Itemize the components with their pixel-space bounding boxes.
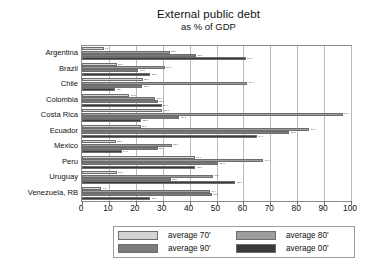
x-axis-tick-label: 100 xyxy=(343,203,357,213)
bar xyxy=(82,181,235,184)
y-axis-label-uruguay: Uruguay xyxy=(4,172,78,181)
bar-value-label: 77.0 xyxy=(291,131,296,134)
bar-value-label: 21.0 xyxy=(140,69,145,72)
bar-value-label: 33.0 xyxy=(172,178,177,181)
bar-group: 22.661.422.412.4 xyxy=(82,77,351,93)
x-axis-tick-label: 70 xyxy=(265,203,274,213)
bar-value-label: 48.6 xyxy=(214,174,219,177)
legend-swatch-icon xyxy=(118,231,158,240)
plot-area: 8.132.642.260.812.930.821.025.322.661.42… xyxy=(81,45,352,202)
bar-value-label: 30.8 xyxy=(166,66,171,69)
bar-value-label: 61.4 xyxy=(249,81,254,84)
legend-label: average 70' xyxy=(168,231,211,240)
bar-value-label: 67.4 xyxy=(265,159,270,162)
bar-value-label: 22.0 xyxy=(143,119,148,122)
bar-value-label: 7.1 xyxy=(103,187,106,190)
legend-items: average 70'average 80'average 90'average… xyxy=(118,230,352,256)
bar-group: 8.132.642.260.8 xyxy=(82,46,351,62)
bar-group: 29.897.036.122.0 xyxy=(82,108,351,124)
bar-value-label: 22.6 xyxy=(144,78,149,81)
legend-item[interactable]: average 90' xyxy=(118,243,211,254)
y-axis-labels: ArgentinaBrazilChileColombiaCosta RicaEc… xyxy=(2,45,78,200)
bar-value-label: 22.4 xyxy=(144,85,149,88)
legend-label: average 00' xyxy=(286,244,329,253)
bar-group: 21.984.477.064.9 xyxy=(82,124,351,140)
x-axis-tick-label: 90 xyxy=(318,203,327,213)
bar-value-label: 48.2 xyxy=(213,193,218,196)
bar-value-label: 12.9 xyxy=(118,63,123,66)
bar xyxy=(82,88,115,91)
gridline xyxy=(351,46,352,201)
x-axis-tick-label: 0 xyxy=(79,203,84,213)
page-title: External public debt xyxy=(0,8,369,21)
bar-group: 12.533.328.114.7 xyxy=(82,139,351,155)
bar xyxy=(82,150,122,153)
bar-value-label: 64.9 xyxy=(258,135,263,138)
x-axis-tick-label: 10 xyxy=(103,203,112,213)
bar-value-label: 42.1 xyxy=(197,166,202,169)
bar-value-label: 8.1 xyxy=(105,47,108,50)
x-axis-tick-label: 80 xyxy=(292,203,301,213)
x-axis-labels: 0102030405060708090100 xyxy=(81,203,350,217)
bar-value-label: 56.9 xyxy=(237,181,242,184)
bar-value-label: 32.6 xyxy=(171,50,176,53)
bar-value-label: 28.1 xyxy=(159,100,164,103)
bar xyxy=(82,119,141,122)
legend-swatch-icon xyxy=(236,231,276,240)
legend-item[interactable]: average 80' xyxy=(236,230,329,241)
bar-group: 13.048.633.056.9 xyxy=(82,170,351,186)
bar xyxy=(82,57,246,60)
bar-value-label: 50.7 xyxy=(220,162,225,165)
y-axis-label-argentina: Argentina xyxy=(4,48,78,57)
bar-value-label: 41.9 xyxy=(196,156,201,159)
bar-value-label: 33.3 xyxy=(173,143,178,146)
y-axis-label-mexico: Mexico xyxy=(4,141,78,150)
x-axis-tick-label: 20 xyxy=(130,203,139,213)
bar-value-label: 97.0 xyxy=(344,112,349,115)
bar-value-label: 28.1 xyxy=(159,147,164,150)
bar xyxy=(82,135,257,138)
y-axis-label-chile: Chile xyxy=(4,79,78,88)
bar-value-label: 84.4 xyxy=(311,128,316,131)
bar-value-label: 12.5 xyxy=(117,140,122,143)
x-axis-tick-label: 60 xyxy=(238,203,247,213)
bar xyxy=(82,73,150,76)
bar-value-label: 42.2 xyxy=(197,54,202,57)
bar-group: 41.967.450.742.1 xyxy=(82,155,351,171)
legend-swatch-icon xyxy=(118,244,158,253)
bar xyxy=(82,197,150,200)
bar-group: 7.147.448.225.4 xyxy=(82,186,351,202)
legend-label: average 80' xyxy=(286,231,329,240)
x-axis-tick-label: 30 xyxy=(157,203,166,213)
legend-item[interactable]: average 70' xyxy=(118,230,211,241)
bar xyxy=(82,104,162,107)
y-axis-label-venezuela-rb: Venezuela, RB xyxy=(4,188,78,197)
bar-group: 12.930.821.025.3 xyxy=(82,62,351,78)
bar-value-label: 60.8 xyxy=(247,57,252,60)
bar-value-label: 12.4 xyxy=(117,88,122,91)
chart-container: External public debt as % of GDP Argenti… xyxy=(0,0,369,269)
chart-subtitle: as % of GDP xyxy=(0,21,369,33)
legend: average 70'average 80'average 90'average… xyxy=(113,226,355,258)
bar-value-label: 29.8 xyxy=(164,109,169,112)
bar-group: 17.527.328.129.6 xyxy=(82,93,351,109)
y-axis-label-ecuador: Ecuador xyxy=(4,126,78,135)
bar-value-label: 25.4 xyxy=(152,197,157,200)
bar-value-label: 21.9 xyxy=(142,125,147,128)
chart-title-block: External public debt as % of GDP xyxy=(0,8,369,33)
legend-item[interactable]: average 00' xyxy=(236,243,329,254)
y-axis-label-costa-rica: Costa Rica xyxy=(4,110,78,119)
x-axis-tick-label: 40 xyxy=(184,203,193,213)
bar-value-label: 29.6 xyxy=(163,104,168,107)
bar-value-label: 13.0 xyxy=(118,171,123,174)
y-axis-label-peru: Peru xyxy=(4,157,78,166)
bar xyxy=(82,166,195,169)
bar-value-label: 36.1 xyxy=(181,116,186,119)
x-axis-tick-label: 50 xyxy=(211,203,220,213)
bar-value-label: 14.7 xyxy=(123,150,128,153)
y-axis-label-colombia: Colombia xyxy=(4,95,78,104)
bar-value-label: 17.5 xyxy=(131,94,136,97)
legend-label: average 90' xyxy=(168,244,211,253)
y-axis-label-brazil: Brazil xyxy=(4,64,78,73)
bar-value-label: 25.3 xyxy=(152,73,157,76)
